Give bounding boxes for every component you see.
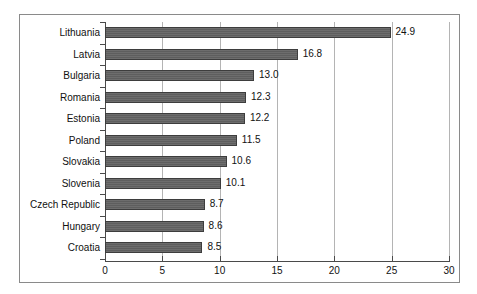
y-axis-tick — [100, 87, 105, 88]
bar-chart-figure: LithuaniaLatviaBulgariaRomaniaEstoniaPol… — [0, 0, 477, 294]
bar-croatia — [105, 242, 202, 253]
bar-row: 12.3 — [105, 87, 477, 109]
category-label-latvia: Latvia — [73, 44, 100, 66]
bar-value-label: 12.3 — [251, 89, 270, 105]
y-axis-tick — [100, 173, 105, 174]
category-label-poland: Poland — [69, 130, 100, 152]
bar-value-label: 8.6 — [209, 218, 223, 234]
bar-poland — [105, 135, 237, 146]
x-axis-label-5: 5 — [147, 264, 177, 278]
bar-value-label: 13.0 — [259, 67, 278, 83]
bar-value-label: 10.1 — [226, 175, 245, 191]
y-axis-tick — [100, 151, 105, 152]
bar-czech-republic — [105, 199, 205, 210]
x-axis-label-0: 0 — [90, 264, 120, 278]
bar-estonia — [105, 113, 245, 124]
y-axis-tick — [100, 44, 105, 45]
bar-value-label: 8.7 — [210, 196, 224, 212]
bar-value-label: 24.9 — [396, 24, 415, 40]
category-axis-labels: LithuaniaLatviaBulgariaRomaniaEstoniaPol… — [20, 22, 105, 259]
plot-area: 24.916.813.012.312.211.510.610.18.78.68.… — [105, 22, 449, 259]
category-label-romania: Romania — [60, 87, 100, 109]
bar-row: 16.8 — [105, 44, 477, 66]
bar-row: 24.9 — [105, 22, 477, 44]
category-label-slovakia: Slovakia — [62, 151, 100, 173]
x-axis-label-30: 30 — [434, 264, 464, 278]
category-label-czech-republic: Czech Republic — [30, 194, 100, 216]
bar-value-label: 11.5 — [242, 132, 261, 148]
x-axis-tick — [162, 256, 163, 262]
bar-hungary — [105, 221, 204, 232]
bar-value-label: 8.5 — [207, 239, 221, 255]
y-axis-tick — [100, 194, 105, 195]
x-axis-tick — [105, 256, 106, 262]
bar-row: 8.6 — [105, 216, 477, 238]
bar-value-label: 10.6 — [232, 153, 251, 169]
bar-lithuania — [105, 27, 391, 38]
bar-row: 8.7 — [105, 194, 477, 216]
bar-value-label: 12.2 — [250, 110, 269, 126]
x-axis-label-25: 25 — [377, 264, 407, 278]
y-axis-tick — [100, 65, 105, 66]
x-axis-tick — [277, 256, 278, 262]
bar-row: 11.5 — [105, 130, 477, 152]
bar-row: 10.6 — [105, 151, 477, 173]
x-axis-label-15: 15 — [262, 264, 292, 278]
chart-frame: LithuaniaLatviaBulgariaRomaniaEstoniaPol… — [19, 14, 460, 283]
x-axis-label-10: 10 — [205, 264, 235, 278]
category-label-croatia: Croatia — [68, 237, 100, 259]
y-axis-tick — [100, 22, 105, 23]
bar-row: 8.5 — [105, 237, 477, 259]
bar-bulgaria — [105, 70, 254, 81]
category-label-hungary: Hungary — [62, 216, 100, 238]
x-axis-tick — [449, 256, 450, 262]
bar-slovakia — [105, 156, 227, 167]
x-axis-label-20: 20 — [319, 264, 349, 278]
x-axis-tick — [392, 256, 393, 262]
bar-row: 13.0 — [105, 65, 477, 87]
bar-latvia — [105, 49, 298, 60]
y-axis-tick — [100, 237, 105, 238]
y-axis-tick — [100, 108, 105, 109]
category-label-bulgaria: Bulgaria — [63, 65, 100, 87]
category-label-estonia: Estonia — [67, 108, 100, 130]
bar-slovenia — [105, 178, 221, 189]
bar-value-label: 16.8 — [303, 46, 322, 62]
y-axis-tick — [100, 130, 105, 131]
x-axis-tick — [334, 256, 335, 262]
x-axis-tick — [220, 256, 221, 262]
bar-row: 12.2 — [105, 108, 477, 130]
bar-row: 10.1 — [105, 173, 477, 195]
y-axis-tick — [100, 216, 105, 217]
bar-romania — [105, 92, 246, 103]
category-label-lithuania: Lithuania — [59, 22, 100, 44]
category-label-slovenia: Slovenia — [62, 173, 100, 195]
